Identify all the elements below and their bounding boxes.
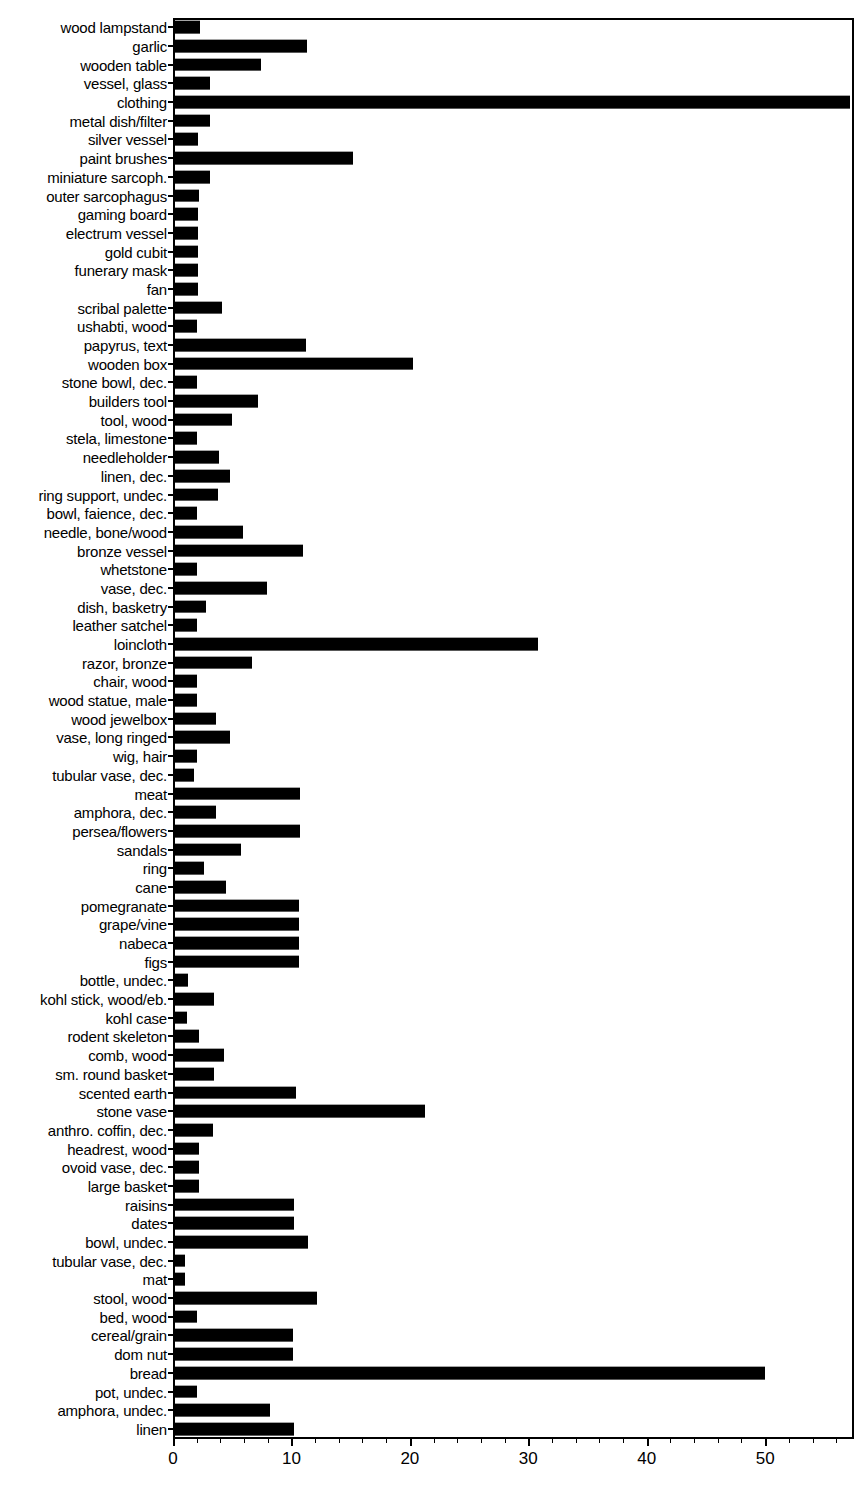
bar xyxy=(173,339,306,352)
bar xyxy=(173,1067,214,1080)
bar xyxy=(173,1217,294,1230)
bar xyxy=(173,413,232,426)
category-label: miniature sarcoph. xyxy=(47,169,167,184)
category-label: bottle, undec. xyxy=(80,973,167,988)
x-axis-minor-tick xyxy=(220,1439,221,1443)
bar xyxy=(173,1292,317,1305)
bar xyxy=(173,320,197,333)
bar xyxy=(173,862,204,875)
bar xyxy=(173,395,258,408)
category-label: pomegranate xyxy=(81,898,167,913)
bar xyxy=(173,77,210,90)
x-axis-minor-tick xyxy=(813,1439,814,1443)
bar-row: ushabti, wood xyxy=(173,317,854,336)
bar xyxy=(173,974,188,987)
bar xyxy=(173,1011,187,1024)
category-label: outer sarcophagus xyxy=(46,188,167,203)
bar xyxy=(173,600,206,613)
bar xyxy=(173,656,252,669)
bar-row: amphora, undec. xyxy=(173,1401,854,1420)
bar xyxy=(173,96,850,109)
bar-row: clothing xyxy=(173,93,854,112)
bar xyxy=(173,1310,197,1323)
category-label: vase, dec. xyxy=(101,580,167,595)
category-label: large basket xyxy=(88,1178,167,1193)
bar-row: pomegranate xyxy=(173,896,854,915)
bar-row: outer sarcophagus xyxy=(173,186,854,205)
x-axis-minor-tick xyxy=(197,1439,198,1443)
bar-row: bread xyxy=(173,1364,854,1383)
bar xyxy=(173,1254,185,1267)
bar xyxy=(173,245,198,258)
category-label: cane xyxy=(135,879,167,894)
x-axis-minor-tick xyxy=(623,1439,624,1443)
category-label: persea/flowers xyxy=(72,823,167,838)
category-label: needle, bone/wood xyxy=(44,524,167,539)
bar-row: bowl, undec. xyxy=(173,1233,854,1252)
category-label: amphora, undec. xyxy=(57,1403,167,1418)
category-label: mat xyxy=(143,1272,167,1287)
bar xyxy=(173,881,226,894)
bar xyxy=(173,264,198,277)
bar-row: garlic xyxy=(173,37,854,56)
category-label: kohl case xyxy=(105,1010,167,1025)
bar-row: whetstone xyxy=(173,560,854,579)
bar-row: scribal palette xyxy=(173,298,854,317)
category-label: ovoid vase, dec. xyxy=(62,1160,167,1175)
bar xyxy=(173,488,218,501)
bar xyxy=(173,469,230,482)
bar-row: cereal/grain xyxy=(173,1326,854,1345)
bar-row: stone vase xyxy=(173,1102,854,1121)
category-label: chair, wood xyxy=(93,674,167,689)
category-label: stone vase xyxy=(96,1104,167,1119)
bar-row: funerary mask xyxy=(173,261,854,280)
bar-row: chair, wood xyxy=(173,672,854,691)
category-label: wood lampstand xyxy=(61,20,167,35)
bar xyxy=(173,1049,224,1062)
category-label: vase, long ringed xyxy=(56,730,167,745)
category-label: dish, basketry xyxy=(77,599,167,614)
category-label: headrest, wood xyxy=(67,1141,167,1156)
category-label: tubular vase, dec. xyxy=(52,767,167,782)
x-axis-major-tick xyxy=(647,1439,649,1446)
bar xyxy=(173,843,241,856)
category-label: bed, wood xyxy=(100,1309,167,1324)
category-label: linen, dec. xyxy=(101,468,167,483)
bar xyxy=(173,507,197,520)
bar xyxy=(173,526,243,539)
bar xyxy=(173,806,216,819)
category-label: scented earth xyxy=(79,1085,167,1100)
category-label: kohl stick, wood/eb. xyxy=(40,992,167,1007)
x-axis-minor-tick xyxy=(836,1439,837,1443)
bar xyxy=(173,544,303,557)
bar xyxy=(173,1161,199,1174)
bar-row: metal dish/filter xyxy=(173,111,854,130)
bar-row: ovoid vase, dec. xyxy=(173,1158,854,1177)
bar-row: miniature sarcoph. xyxy=(173,168,854,187)
category-label: wooden box xyxy=(88,356,167,371)
bar xyxy=(173,582,267,595)
category-label: pot, undec. xyxy=(95,1384,167,1399)
category-label: raisins xyxy=(125,1197,167,1212)
bar-row: amphora, dec. xyxy=(173,803,854,822)
bar xyxy=(173,993,214,1006)
bar xyxy=(173,283,198,296)
category-label: cereal/grain xyxy=(91,1328,167,1343)
bar xyxy=(173,1423,294,1436)
bar-row: wooden box xyxy=(173,354,854,373)
bar xyxy=(173,731,230,744)
bar xyxy=(173,1404,270,1417)
bar-row: vase, long ringed xyxy=(173,728,854,747)
bar-row: bronze vessel xyxy=(173,541,854,560)
bar-row: kohl stick, wood/eb. xyxy=(173,990,854,1009)
bar-row: linen xyxy=(173,1420,854,1439)
bar-row: grape/vine xyxy=(173,915,854,934)
category-label: sm. round basket xyxy=(55,1066,167,1081)
bar-row: cane xyxy=(173,878,854,897)
x-axis-minor-tick xyxy=(481,1439,482,1443)
category-label: funerary mask xyxy=(75,263,167,278)
bar xyxy=(173,189,199,202)
bar xyxy=(173,1180,199,1193)
category-label: gaming board xyxy=(78,207,167,222)
bar-row: dates xyxy=(173,1214,854,1233)
